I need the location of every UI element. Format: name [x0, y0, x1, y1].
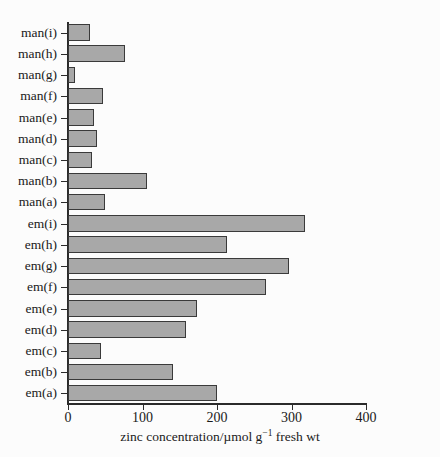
bar-eme: [68, 300, 197, 317]
bar-mana: [68, 194, 105, 211]
y-axis-label-mang: man(g): [0, 68, 57, 82]
x-axis-tick-label: 300: [262, 410, 322, 426]
bar-emc: [68, 343, 101, 360]
y-axis-label-manh: man(h): [0, 47, 57, 61]
x-axis-tick-label: 200: [187, 410, 247, 426]
bar-rows: [68, 22, 366, 404]
bar-row: [68, 86, 366, 107]
x-axis-title: zinc concentration/µmol g−1 fresh wt: [0, 429, 440, 445]
y-axis-label-manb: man(b): [0, 174, 57, 188]
bar-row: [68, 319, 366, 340]
bar-ema: [68, 385, 217, 402]
bar-emi: [68, 215, 305, 232]
bar-manh: [68, 45, 125, 62]
y-axis-label-emf: em(f): [0, 280, 57, 294]
bar-row: [68, 255, 366, 276]
bar-mang: [68, 67, 75, 84]
y-axis-label-mani: man(i): [0, 26, 57, 40]
bar-mani: [68, 24, 90, 41]
bar-row: [68, 107, 366, 128]
bar-row: [68, 149, 366, 170]
plot-area: [68, 22, 366, 404]
bar-row: [68, 277, 366, 298]
bar-row: [68, 192, 366, 213]
bar-emg: [68, 258, 289, 275]
x-axis-tick-label: 400: [336, 410, 396, 426]
y-axis-label-emd: em(d): [0, 323, 57, 337]
bar-row: [68, 234, 366, 255]
x-axis-title-exponent: −1: [262, 428, 272, 438]
bar-manf: [68, 88, 103, 105]
bar-row: [68, 64, 366, 85]
bar-mand: [68, 130, 97, 147]
y-axis-label-mand: man(d): [0, 132, 57, 146]
y-axis-label-manc: man(c): [0, 153, 57, 167]
bar-row: [68, 22, 366, 43]
bar-row: [68, 171, 366, 192]
bar-row: [68, 128, 366, 149]
bar-row: [68, 213, 366, 234]
y-axis-label-emi: em(i): [0, 217, 57, 231]
y-axis-label-emg: em(g): [0, 259, 57, 273]
y-axis-label-ema: em(a): [0, 386, 57, 400]
bar-row: [68, 298, 366, 319]
x-axis-title-tail: fresh wt: [272, 429, 319, 444]
y-axis-label-emh: em(h): [0, 238, 57, 252]
bar-mane: [68, 109, 94, 126]
bar-emb: [68, 364, 173, 381]
bar-manb: [68, 173, 147, 190]
y-axis-label-manf: man(f): [0, 89, 57, 103]
zinc-concentration-bar-chart: em(a)em(b)em(c)em(d)em(e)em(f)em(g)em(h)…: [0, 0, 440, 457]
y-axis-label-eme: em(e): [0, 302, 57, 316]
y-axis-label-emb: em(b): [0, 365, 57, 379]
bar-row: [68, 362, 366, 383]
bar-emh: [68, 236, 227, 253]
x-axis-tick-label: 100: [113, 410, 173, 426]
x-axis-title-main: zinc concentration/µmol g: [120, 429, 262, 444]
y-axis-label-mane: man(e): [0, 111, 57, 125]
x-axis-tick-label: 0: [38, 410, 98, 426]
bar-row: [68, 340, 366, 361]
bar-emd: [68, 321, 186, 338]
bar-row: [68, 383, 366, 404]
bar-manc: [68, 152, 92, 169]
y-axis-label-emc: em(c): [0, 344, 57, 358]
bar-emf: [68, 279, 266, 296]
y-axis-label-mana: man(a): [0, 195, 57, 209]
bar-row: [68, 43, 366, 64]
